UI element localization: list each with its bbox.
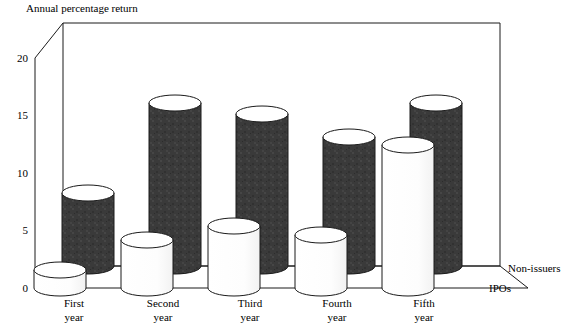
bar-ipos-fourth-year [295,227,347,296]
y-tick-20: 20 [17,52,29,64]
y-tick-0: 0 [23,282,29,294]
bar-ipos-third-year [208,218,260,296]
cat-fourth-year-line1: Fourth [322,297,352,309]
cat-third-year-line1: Third [238,297,263,309]
x-category-labels: First year Second year Third year Fourth… [64,297,435,323]
y-axis-depth-top [35,23,63,58]
depth-label-ipos: IPOs [489,282,511,294]
bar-ipos-fifth-year [382,137,434,296]
bar-ipos-second-year [121,232,173,296]
chart-title: Annual percentage return [26,2,138,14]
cat-fourth-year-line2: year [328,311,347,323]
cat-second-year-line2: year [154,311,173,323]
depth-axis-labels: Non-issuers IPOs [489,262,561,294]
chart-root: 20 15 10 5 0 [0,0,563,328]
cat-fifth-year-line1: Fifth [413,297,435,309]
cat-third-year-line2: year [241,311,260,323]
cat-second-year-line1: Second [147,297,180,309]
bar-non-issuers-first-year [62,185,114,274]
cat-first-year-line1: First [64,297,84,309]
cat-first-year-line2: year [65,311,84,323]
y-tick-10: 10 [17,167,29,179]
y-tick-labels: 20 15 10 5 0 [17,52,29,294]
y-tick-5: 5 [23,224,29,236]
cat-fifth-year-line2: year [415,311,434,323]
y-tick-15: 15 [17,109,29,121]
cylinder-chart-svg: 20 15 10 5 0 [0,0,563,328]
bar-ipos-first-year [34,262,86,296]
depth-label-non-issuers: Non-issuers [508,262,561,274]
